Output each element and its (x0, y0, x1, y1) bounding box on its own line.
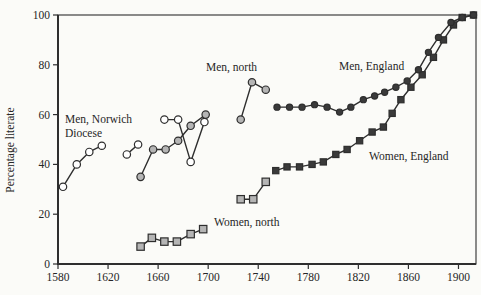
data-point-women-england (284, 164, 290, 170)
data-point-men-england (286, 104, 292, 110)
data-point-men-england (415, 67, 421, 73)
data-point-women-north (262, 178, 269, 185)
data-point-men-north (248, 79, 255, 86)
data-point-women-north (173, 238, 180, 245)
data-point-women-north (187, 230, 194, 237)
data-point-men-norwich-diocese (98, 142, 105, 149)
y-axis-tick-label: 40 (39, 158, 51, 170)
data-point-men-england (382, 89, 388, 95)
data-point-men-england (372, 93, 378, 99)
data-point-women-england (398, 97, 404, 103)
y-axis-title: Percentage literate (4, 107, 17, 192)
x-axis-tick-label: 1740 (247, 271, 270, 283)
x-axis-tick-label: 1820 (347, 271, 370, 283)
x-axis-tick-label: 1900 (447, 271, 470, 283)
y-axis-tick-label: 20 (39, 208, 51, 220)
data-point-men-norwich-diocese (187, 158, 194, 165)
data-point-men-england (336, 109, 342, 115)
data-point-women-england (357, 138, 363, 144)
literacy-chart-figure: 1580162016601700174017801820186019000204… (0, 0, 481, 295)
data-point-women-england (296, 164, 302, 170)
data-point-men-norwich-diocese (123, 151, 130, 158)
x-axis-tick-label: 1620 (97, 271, 120, 283)
data-point-men-norwich-diocese (86, 148, 93, 155)
data-point-women-england (333, 151, 339, 157)
data-point-women-north (161, 238, 168, 245)
data-point-men-england (448, 19, 454, 25)
data-point-men-england (459, 14, 465, 20)
data-point-men-england (311, 102, 317, 108)
data-point-men-norwich-diocese (201, 118, 208, 125)
data-point-men-england (435, 34, 441, 40)
data-point-men-england (299, 104, 305, 110)
data-point-men-england (348, 104, 354, 110)
x-axis-tick-label: 1780 (297, 271, 320, 283)
y-axis-tick-label: 100 (33, 9, 51, 21)
data-point-men-norwich-diocese (73, 161, 80, 168)
data-point-men-england (425, 49, 431, 55)
data-point-women-england (408, 84, 414, 90)
x-axis-tick-label: 1860 (397, 271, 420, 283)
y-axis-tick-label: 80 (39, 59, 51, 71)
data-point-men-norwich-diocese (174, 116, 181, 123)
label-women-england: Women, England (369, 150, 449, 163)
series-line-men-norwich-diocese (164, 120, 204, 162)
data-point-women-england (344, 146, 350, 152)
data-point-women-north (148, 234, 155, 241)
x-axis-tick-label: 1700 (197, 271, 220, 283)
data-point-men-england (470, 12, 476, 18)
data-point-men-north (162, 146, 169, 153)
data-point-men-north (137, 173, 144, 180)
data-point-women-england (309, 161, 315, 167)
data-point-women-england (380, 124, 386, 130)
data-point-men-england (393, 84, 399, 90)
data-point-women-north (137, 243, 144, 250)
data-point-women-north (237, 196, 244, 203)
data-point-men-north (262, 86, 269, 93)
data-point-women-england (320, 159, 326, 165)
data-point-women-england (389, 110, 395, 116)
y-axis-tick-label: 60 (39, 109, 51, 121)
data-point-men-north (187, 122, 194, 129)
data-point-men-england (404, 78, 410, 84)
data-point-men-england (274, 104, 280, 110)
x-axis-tick-label: 1580 (47, 271, 70, 283)
data-point-men-north (202, 111, 209, 118)
label-men-north: Men, north (206, 61, 257, 74)
data-point-women-england (369, 129, 375, 135)
label-men-norwich-line1: Men, Norwich (65, 113, 132, 126)
data-point-women-england (430, 54, 436, 60)
data-point-women-north (199, 225, 206, 232)
data-point-men-north (149, 146, 156, 153)
data-point-men-north (174, 137, 181, 144)
series-line-men-norwich-diocese (63, 146, 102, 187)
data-point-men-norwich-diocese (134, 141, 141, 148)
y-axis-tick-label: 0 (44, 258, 50, 270)
data-point-women-north (250, 196, 257, 203)
data-point-women-england (273, 168, 279, 174)
x-axis-tick-label: 1660 (147, 271, 170, 283)
data-point-men-north (237, 116, 244, 123)
literacy-line-chart: 1580162016601700174017801820186019000204… (0, 0, 481, 295)
data-point-men-england (360, 97, 366, 103)
data-point-men-england (324, 104, 330, 110)
data-point-men-norwich-diocese (161, 116, 168, 123)
label-women-north: Women, north (214, 216, 280, 229)
data-point-men-norwich-diocese (59, 183, 66, 190)
label-men-england: Men, England (339, 60, 404, 73)
label-men-norwich-line2: Diocese (65, 127, 102, 139)
